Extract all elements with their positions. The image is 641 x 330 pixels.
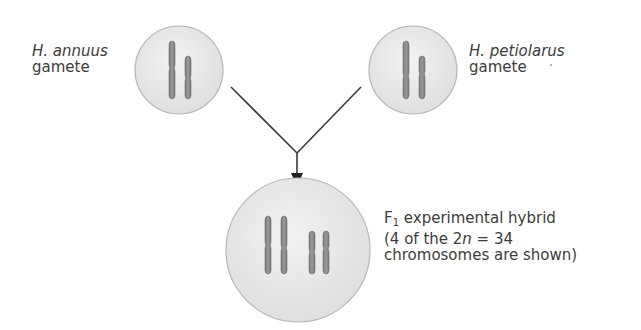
chromosome-long xyxy=(169,41,175,99)
chromosome-long-petiolarus xyxy=(281,216,287,274)
chromosome-long-annuus xyxy=(265,216,271,274)
f1-hybrid-note-end: chromosomes are shown) xyxy=(384,247,577,263)
connector-left-line xyxy=(231,87,297,153)
h-annuus-label: H. annuus gamete xyxy=(32,43,108,75)
cross-connector xyxy=(231,87,361,175)
f1-hybrid-count-note: (4 of the 2n = 34 xyxy=(384,231,577,247)
h-annuus-species-name: H. annuus xyxy=(32,43,108,59)
h-annuus-role: gamete xyxy=(32,59,108,75)
h-petiolarus-label: H. petiolarus gamete xyxy=(469,43,565,75)
h-petiolarus-gamete-cell xyxy=(369,26,457,114)
hybrid-description: experimental hybrid xyxy=(399,209,556,227)
h-annuus-gamete-cell xyxy=(135,26,223,114)
f1-hybrid-cell xyxy=(226,178,370,322)
f1-hybrid-title: F1 experimental hybrid xyxy=(384,210,577,231)
connector-right-line xyxy=(297,87,361,153)
chromosome-short-annuus xyxy=(309,231,315,274)
chromosome-short xyxy=(419,56,425,99)
chromosome-long xyxy=(403,41,409,99)
h-petiolarus-role: gamete xyxy=(469,59,565,75)
chromosome-short xyxy=(185,56,191,99)
generation-letter: F xyxy=(384,209,393,227)
chromosome-short-petiolarus xyxy=(323,231,329,274)
h-petiolarus-species-name: H. petiolarus xyxy=(469,43,565,59)
stray-dot xyxy=(550,64,552,66)
f1-hybrid-label: F1 experimental hybrid (4 of the 2n = 34… xyxy=(384,210,577,263)
